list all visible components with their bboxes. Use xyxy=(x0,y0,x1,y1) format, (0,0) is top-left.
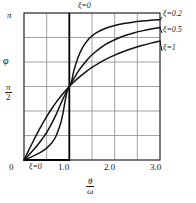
x-tick-2: 2.0 xyxy=(104,163,115,172)
x-axis-label-numerator: θ xyxy=(86,177,94,186)
legend-item-xi-0-2: ξ=0.2 xyxy=(163,10,182,18)
y-axis-label: φ xyxy=(3,56,9,66)
x-axis-label: θ ω xyxy=(86,177,94,197)
y-tick-pi-over-2-denominator: 2 xyxy=(5,92,12,102)
annotation-xi-zero-axis: ξ=0 xyxy=(29,163,42,171)
annotation-xi-zero-top: ξ=0 xyxy=(78,2,91,10)
y-tick-pi-over-2-numerator: π xyxy=(5,83,12,92)
y-tick-pi: π xyxy=(7,11,12,20)
chart-figure: φ π π 2 0 1.0 2.0 3.0 θ ω ξ=0 ξ=0 ξ=0.2 … xyxy=(0,0,196,203)
x-tick-1: 1.0 xyxy=(58,163,69,172)
legend-item-xi-1: ξ=1 xyxy=(163,44,176,52)
x-tick-3: 3.0 xyxy=(150,163,161,172)
legend-item-xi-0-5: ξ=0.5 xyxy=(163,26,182,34)
x-axis-label-denominator: ω xyxy=(86,186,94,196)
origin-tick-zero: 0 xyxy=(9,163,14,172)
y-tick-pi-over-2: π 2 xyxy=(5,83,12,103)
